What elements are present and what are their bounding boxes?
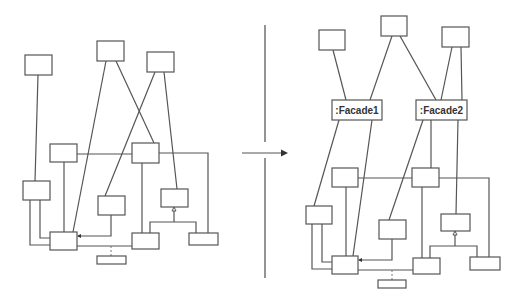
left-box-j [132, 233, 159, 249]
left-box-l [97, 256, 126, 264]
right-box-i [332, 256, 358, 274]
left-box-k [189, 233, 218, 245]
left-box-a [25, 55, 52, 75]
left-box-f [23, 181, 50, 200]
facade-pattern-diagram: :Facade1 :Facade2 [0, 0, 527, 304]
left-box-e [132, 143, 159, 163]
right-box-r3 [442, 27, 469, 47]
left-box-c [147, 52, 174, 72]
left-box-i [50, 232, 77, 250]
right-box-j [413, 258, 440, 274]
left-box-b [97, 41, 124, 61]
left-box-h [161, 189, 188, 207]
right-connections [312, 36, 489, 280]
right-box-r1 [319, 30, 345, 50]
right-box-h [441, 214, 470, 231]
right-box-f [306, 206, 332, 224]
right-box-g [379, 220, 406, 239]
right-diagram: :Facade1 :Facade2 [306, 16, 500, 288]
right-box-l [378, 280, 406, 288]
right-box-r2 [381, 16, 407, 36]
right-box-e [412, 168, 439, 187]
facade1-label: :Facade1 [335, 105, 379, 116]
left-diagram [23, 41, 218, 264]
left-box-d [50, 144, 77, 162]
right-arrow-icon [242, 150, 288, 157]
right-box-d [332, 168, 358, 187]
right-box-k [470, 257, 500, 270]
facade2-label: :Facade2 [420, 105, 464, 116]
facade2-box: :Facade2 [416, 100, 467, 120]
facade1-box: :Facade1 [332, 100, 382, 120]
left-box-g [98, 196, 125, 215]
